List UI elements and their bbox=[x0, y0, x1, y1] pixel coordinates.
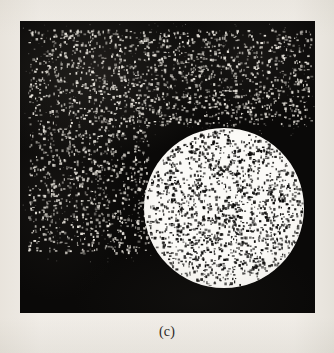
dark-image-panel bbox=[20, 21, 315, 313]
figure-caption: (c) bbox=[0, 324, 334, 340]
pepper-noise-canvas bbox=[144, 128, 304, 288]
figure-panel-wrapper bbox=[20, 21, 315, 313]
white-disc bbox=[144, 128, 304, 288]
figure-container: (c) bbox=[0, 0, 334, 353]
